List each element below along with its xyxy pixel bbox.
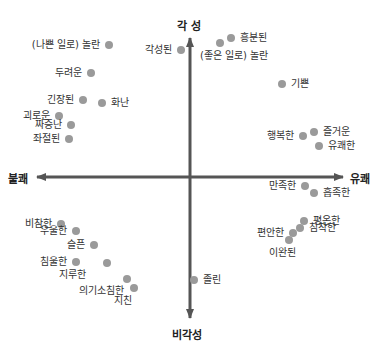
emotion-label: 기쁜 bbox=[291, 78, 309, 90]
emotion-dot bbox=[315, 142, 323, 150]
axes-graphic bbox=[0, 0, 385, 354]
emotion-dot bbox=[177, 46, 185, 54]
emotion-dot bbox=[87, 69, 95, 77]
emotion-label: 편안한 bbox=[257, 227, 284, 239]
emotion-dot bbox=[296, 224, 304, 232]
arousal-valence-diagram: 각 성 비각성 불쾌 유쾌 (나쁜 일로) 놀란두려운긴장된화난괴로운짜증난좌절… bbox=[0, 0, 385, 354]
emotion-label: 지루한 bbox=[59, 269, 86, 281]
emotion-label: 졸린 bbox=[203, 274, 221, 286]
emotion-label: 흥분된 bbox=[240, 32, 267, 44]
emotion-dot bbox=[310, 128, 318, 136]
emotion-label: 좌절된 bbox=[33, 133, 60, 145]
emotion-label: 만족한 bbox=[269, 180, 296, 192]
emotion-label: 슬픈 bbox=[67, 239, 85, 251]
axis-label-non-arousal: 비각성 bbox=[172, 326, 202, 342]
emotion-label: 화난 bbox=[111, 97, 129, 109]
emotion-dot bbox=[285, 236, 293, 244]
emotion-label: 침착한 bbox=[309, 222, 336, 234]
emotion-label: 즐거운 bbox=[323, 126, 350, 138]
emotion-label: 짜증난 bbox=[35, 119, 62, 131]
emotion-dot bbox=[310, 189, 318, 197]
emotion-dot bbox=[65, 135, 73, 143]
emotion-label: 행복한 bbox=[267, 130, 294, 142]
emotion-label: 침울한 bbox=[40, 256, 67, 268]
emotion-dot bbox=[72, 258, 80, 266]
emotion-dot bbox=[79, 96, 87, 104]
axis-label-pleasant: 유쾌 bbox=[350, 170, 370, 186]
emotion-label: 각성된 bbox=[145, 44, 172, 56]
emotion-dot bbox=[216, 39, 224, 47]
emotion-dot bbox=[190, 276, 198, 284]
emotion-label: 긴장된 bbox=[47, 94, 74, 106]
emotion-label: (나쁜 일로) 놀란 bbox=[32, 39, 100, 51]
emotion-label: 흡족한 bbox=[323, 187, 350, 199]
emotion-label: 두려운 bbox=[55, 67, 82, 79]
emotion-dot bbox=[227, 34, 235, 42]
emotion-label: 유쾌한 bbox=[328, 140, 355, 152]
emotion-dot bbox=[72, 227, 80, 235]
emotion-dot bbox=[105, 41, 113, 49]
emotion-dot bbox=[67, 121, 75, 129]
emotion-dot bbox=[123, 275, 131, 283]
axis-label-unpleasant: 불쾌 bbox=[8, 170, 28, 186]
emotion-dot bbox=[301, 182, 309, 190]
emotion-label: (좋은 일로) 놀란 bbox=[200, 50, 268, 62]
emotion-dot bbox=[130, 284, 138, 292]
emotion-dot bbox=[90, 241, 98, 249]
emotion-dot bbox=[103, 259, 111, 267]
axis-label-arousal: 각 성 bbox=[177, 17, 201, 33]
emotion-label: 우울한 bbox=[40, 225, 67, 237]
emotion-dot bbox=[98, 99, 106, 107]
emotion-dot bbox=[299, 132, 307, 140]
emotion-label: 지친 bbox=[114, 295, 132, 307]
emotion-dot bbox=[278, 80, 286, 88]
emotion-label: 이완된 bbox=[269, 247, 296, 259]
